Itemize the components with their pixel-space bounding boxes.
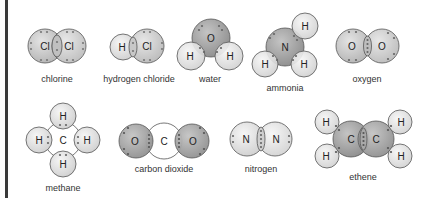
svg-text:O: O <box>207 33 215 44</box>
molecule-water: O H H <box>177 19 243 70</box>
svg-text:H: H <box>226 51 233 62</box>
svg-text:O: O <box>378 41 386 52</box>
molecule-chlorine: Cl Cl <box>28 29 86 63</box>
svg-text:H: H <box>59 111 66 122</box>
svg-text:H: H <box>397 117 404 128</box>
label-ethene: ethene <box>349 172 377 182</box>
svg-text:N: N <box>242 134 249 145</box>
svg-text:C: C <box>160 136 167 147</box>
svg-text:N: N <box>281 42 288 53</box>
label-chlorine: chlorine <box>41 74 73 84</box>
svg-text:H: H <box>59 159 66 170</box>
svg-text:H: H <box>397 151 404 162</box>
svg-text:O: O <box>131 136 139 147</box>
label-water: water <box>199 74 221 84</box>
svg-text:C: C <box>347 134 354 145</box>
svg-text:H: H <box>186 51 193 62</box>
dot-cross-diagrams: Cl Cl H Cl <box>0 0 433 198</box>
svg-text:C: C <box>59 135 66 146</box>
svg-text:H: H <box>261 59 268 70</box>
label-nitrogen: nitrogen <box>245 164 278 174</box>
molecule-ethene: C C H H H H <box>315 110 412 168</box>
svg-text:N: N <box>272 134 279 145</box>
svg-text:Cl: Cl <box>64 41 73 52</box>
label-hydrogen-chloride: hydrogen chloride <box>103 74 175 84</box>
molecule-oxygen: O O <box>336 29 399 63</box>
svg-text:C: C <box>372 134 379 145</box>
svg-text:H: H <box>322 117 329 128</box>
molecule-methane: C H H H H <box>26 103 100 177</box>
svg-text:H: H <box>322 151 329 162</box>
svg-text:H: H <box>83 135 90 146</box>
molecule-nitrogen: N N <box>230 122 292 156</box>
label-methane: methane <box>45 183 80 193</box>
svg-text:O: O <box>348 41 356 52</box>
svg-text:Cl: Cl <box>40 41 49 52</box>
molecule-ammonia: N H H H <box>252 13 318 77</box>
label-oxygen: oxygen <box>352 74 381 84</box>
molecule-hydrogen-chloride: H Cl <box>110 29 164 63</box>
svg-text:H: H <box>35 135 42 146</box>
svg-text:H: H <box>301 21 308 32</box>
molecule-carbon-dioxide: O C O <box>119 123 209 159</box>
svg-text:H: H <box>118 42 125 53</box>
svg-text:O: O <box>189 136 197 147</box>
label-ammonia: ammonia <box>266 83 303 93</box>
svg-text:H: H <box>300 59 307 70</box>
svg-text:Cl: Cl <box>142 41 151 52</box>
label-carbon-dioxide: carbon dioxide <box>135 164 194 174</box>
